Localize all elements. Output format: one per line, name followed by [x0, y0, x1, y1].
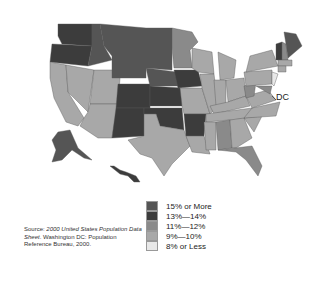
state-michigan — [218, 52, 236, 80]
legend-swatch — [146, 201, 158, 211]
state-colorado — [116, 84, 150, 108]
legend-item: 8% or Less — [146, 241, 212, 251]
legend-swatch — [146, 231, 158, 241]
state-north-dakota — [146, 28, 172, 48]
source-citation: Source: 2000 United States Population Da… — [24, 226, 144, 249]
us-choropleth-map — [0, 0, 323, 200]
legend-label: 8% or Less — [166, 242, 206, 251]
state-kansas — [150, 86, 182, 106]
state-mississippi — [204, 122, 216, 150]
state-florida — [218, 146, 262, 176]
legend-swatch — [146, 221, 158, 231]
state-connecticut — [278, 66, 286, 72]
legend-label: 11%—12% — [166, 222, 205, 231]
legend-swatch — [146, 241, 158, 251]
state-alaska — [52, 130, 92, 162]
state-indiana — [214, 80, 226, 106]
map-legend: 15% or More 13%—14% 11%—12% 9%—10% 8% or… — [146, 201, 212, 251]
legend-label: 13%—14% — [166, 212, 206, 221]
legend-label: 15% or More — [166, 202, 212, 211]
state-vermont — [276, 42, 282, 60]
legend-item: 13%—14% — [146, 211, 212, 221]
legend-item: 9%—10% — [146, 231, 212, 241]
state-arkansas — [184, 114, 206, 136]
legend-item: 11%—12% — [146, 221, 212, 231]
state-south-dakota — [146, 48, 172, 70]
state-pennsylvania — [244, 70, 272, 86]
legend-label: 9%—10% — [166, 232, 202, 241]
state-new-york — [246, 50, 278, 72]
state-alabama — [216, 120, 232, 150]
state-massachusetts — [278, 60, 292, 66]
state-oregon — [50, 44, 92, 66]
state-hawaii — [110, 166, 140, 182]
legend-swatch — [146, 211, 158, 221]
source-prefix: Source: — [24, 226, 46, 232]
dc-annotation: DC — [276, 92, 289, 102]
legend-item: 15% or More — [146, 201, 212, 211]
state-washington — [58, 24, 92, 46]
state-wisconsin — [192, 48, 214, 74]
state-new-jersey — [272, 72, 278, 86]
state-wyoming — [112, 56, 146, 78]
state-iowa — [174, 70, 202, 88]
state-new-mexico — [112, 108, 144, 138]
